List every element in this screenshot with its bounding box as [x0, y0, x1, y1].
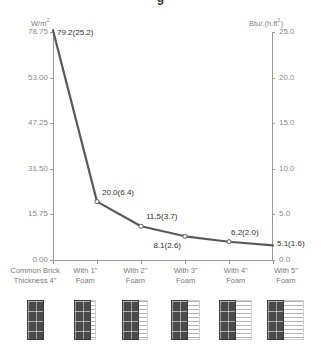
- data-point-label: 5.1(1.6): [277, 239, 305, 248]
- data-point-marker: [95, 200, 99, 204]
- right-axis-unit-text: Btu/.(h.ft: [249, 19, 277, 28]
- wall-foam-4in: [211, 300, 261, 344]
- category-label-5: With 5" Foam: [261, 266, 311, 292]
- wall-foam-2in: [110, 300, 160, 344]
- brick-layer: [267, 300, 284, 340]
- data-point-label: 11.5(3.7): [146, 212, 177, 221]
- wall-foam-5in: [261, 300, 311, 344]
- category-label-0: Common Brick Thickness 4": [10, 266, 60, 292]
- right-axis-tick-label: 15.0: [279, 118, 295, 127]
- series-line: [53, 32, 273, 260]
- category-label-1: With 1" Foam: [60, 266, 110, 292]
- left-axis-tick-label: 53.00: [28, 73, 48, 82]
- left-axis-unit-exponent: 2: [46, 17, 49, 23]
- left-axis-unit-label: W/m2: [31, 17, 49, 28]
- right-axis-tick-label: 0.0: [279, 255, 290, 264]
- data-point-label: 20.0(6.4): [102, 188, 134, 197]
- data-point-label: 8.1(2.6): [135, 241, 181, 250]
- brick-layer: [171, 300, 188, 340]
- foam-layer: [284, 300, 304, 340]
- foam-layer: [236, 300, 252, 340]
- plot-area: 78.7553.0047.2531.5015.750.00 25.020.015…: [53, 32, 273, 260]
- right-axis-tick-label: 10.0: [279, 164, 295, 173]
- wall-foam-3in: [161, 300, 211, 344]
- brick-layer: [122, 300, 139, 340]
- bottom-axis-line: [53, 260, 273, 261]
- foam-layer: [139, 300, 148, 340]
- data-point-label: 79.2(25.2): [57, 28, 93, 37]
- brick-layer: [27, 300, 44, 340]
- bottom-axis-tick: [185, 260, 186, 264]
- data-point-marker: [183, 234, 187, 238]
- left-axis-tick-label: 0.00: [32, 255, 48, 264]
- left-axis-tick-label: 31.50: [28, 164, 48, 173]
- chart-title-cropped: g: [0, 0, 321, 5]
- thermal-transmittance-chart: g W/m2 Btu/.(h.ft2) 78.7553.0047.2531.50…: [0, 0, 321, 350]
- category-label-2: With 2" Foam: [110, 266, 160, 292]
- right-axis-tick-label: 5.0: [279, 209, 290, 218]
- bottom-axis-tick: [141, 260, 142, 264]
- right-axis-unit-label: Btu/.(h.ft2): [249, 17, 283, 28]
- category-label-3: With 3" Foam: [161, 266, 211, 292]
- category-label-4: With 4" Foam: [211, 266, 261, 292]
- brick-layer: [219, 300, 236, 340]
- left-axis-tick-label: 47.25: [28, 118, 48, 127]
- bottom-axis-tick: [273, 260, 274, 264]
- data-point-marker: [139, 224, 143, 228]
- brick-layer: [74, 300, 91, 340]
- wall-foam-1in: [60, 300, 110, 344]
- foam-layer: [188, 300, 200, 340]
- right-axis-tick-label: 25.0: [279, 27, 295, 36]
- data-point-marker: [227, 240, 231, 244]
- wall-common-brick: [10, 300, 60, 344]
- bottom-axis-tick: [53, 260, 54, 264]
- category-axis-labels: Common Brick Thickness 4"With 1" FoamWit…: [10, 266, 311, 292]
- right-axis-tick-label: 20.0: [279, 73, 295, 82]
- wall-section-swatches: [10, 300, 311, 344]
- bottom-axis-tick: [97, 260, 98, 264]
- left-axis-tick-label: 15.75: [28, 209, 48, 218]
- left-axis-tick-label: 78.75: [28, 27, 48, 36]
- bottom-axis-tick: [229, 260, 230, 264]
- data-point-label: 6.2(2.0): [231, 228, 259, 237]
- foam-layer: [91, 300, 96, 340]
